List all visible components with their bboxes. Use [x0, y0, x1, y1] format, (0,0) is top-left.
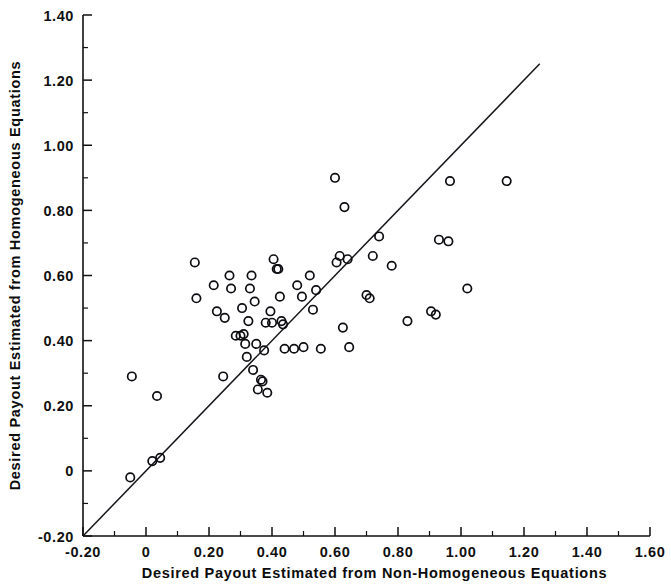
y-tick-label: 0.80: [43, 203, 74, 219]
y-tick-label: 1.00: [43, 138, 74, 154]
data-point: [290, 345, 298, 353]
data-point: [269, 255, 277, 263]
x-tick-label: 0.80: [383, 544, 414, 560]
data-point: [446, 177, 454, 185]
data-point: [247, 271, 255, 279]
data-point: [246, 284, 254, 292]
data-point: [213, 307, 221, 315]
data-point: [191, 258, 199, 266]
data-point: [126, 473, 134, 481]
y-tick-label: 0.60: [43, 268, 74, 284]
x-axis-title: Desired Payout Estimated from Non-Homoge…: [142, 565, 608, 581]
data-point: [244, 317, 252, 325]
data-point: [249, 366, 257, 374]
x-tick-label: -0.20: [65, 544, 101, 560]
data-point: [369, 252, 377, 260]
data-point: [375, 232, 383, 240]
x-tick-label: 1.20: [509, 544, 540, 560]
x-tick-label: 0: [142, 544, 151, 560]
data-point: [403, 317, 411, 325]
data-point: [306, 271, 314, 279]
tick-marks-group: [83, 15, 650, 536]
data-point: [266, 307, 274, 315]
data-point: [293, 281, 301, 289]
data-points-group: [126, 174, 511, 482]
data-point: [298, 292, 306, 300]
y-tick-label: 0: [65, 463, 74, 479]
data-point: [339, 323, 347, 331]
figure-page: -0.2000.200.400.600.801.001.201.401.60-0…: [0, 0, 671, 586]
data-point: [225, 271, 233, 279]
data-point: [345, 343, 353, 351]
y-tick-label: 1.20: [43, 73, 74, 89]
data-point: [331, 174, 339, 182]
data-point: [221, 314, 229, 322]
data-point: [435, 235, 443, 243]
data-point: [444, 237, 452, 245]
data-point: [276, 292, 284, 300]
data-point: [192, 294, 200, 302]
data-point: [340, 203, 348, 211]
data-point: [156, 454, 164, 462]
data-point: [210, 281, 218, 289]
data-point: [299, 343, 307, 351]
data-point: [463, 284, 471, 292]
data-point: [263, 389, 271, 397]
data-point: [219, 372, 227, 380]
tick-labels-group: -0.2000.200.400.600.801.001.201.401.60-0…: [38, 8, 665, 561]
x-tick-label: 0.40: [257, 544, 288, 560]
data-point: [241, 340, 249, 348]
data-point: [280, 345, 288, 353]
y-tick-label: -0.20: [38, 529, 74, 545]
data-point: [388, 262, 396, 270]
y-tick-label: 0.20: [43, 398, 74, 414]
data-point: [317, 345, 325, 353]
x-tick-label: 1.40: [572, 544, 603, 560]
data-point: [153, 392, 161, 400]
data-point: [243, 353, 251, 361]
y-axis-title: Desired Payout Estimated from Homogeneou…: [7, 61, 23, 491]
data-point: [312, 286, 320, 294]
x-tick-label: 1.60: [635, 544, 666, 560]
data-point: [250, 297, 258, 305]
data-point: [309, 305, 317, 313]
data-point: [252, 340, 260, 348]
data-point: [502, 177, 510, 185]
data-point: [238, 304, 246, 312]
x-tick-label: 1.00: [446, 544, 477, 560]
axes-group: [83, 15, 650, 536]
data-point: [128, 372, 136, 380]
x-tick-label: 0.20: [194, 544, 225, 560]
scatter-plot-figure: -0.2000.200.400.600.801.001.201.401.60-0…: [0, 0, 671, 586]
axis-titles-group: Desired Payout Estimated from Non-Homoge…: [7, 61, 607, 581]
x-tick-label: 0.60: [320, 544, 351, 560]
data-point: [260, 346, 268, 354]
y-tick-label: 0.40: [43, 333, 74, 349]
y-tick-label: 1.40: [43, 8, 74, 24]
data-point: [254, 385, 262, 393]
data-point: [227, 284, 235, 292]
